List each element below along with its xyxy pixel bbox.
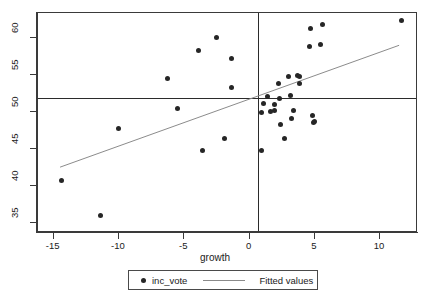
y-tick-label: 35 [10, 208, 20, 237]
legend-line-icon [203, 280, 245, 281]
y-tick-label: 50 [10, 97, 20, 126]
data-point [200, 148, 205, 153]
scatter-plot-figure: 354045505560 -15-10-50510 growth inc_vot… [0, 0, 430, 298]
legend-marker-icon [141, 278, 146, 283]
chart-legend: inc_vote Fitted values [128, 270, 318, 290]
x-tick [379, 233, 380, 239]
x-tick [53, 233, 54, 239]
data-point [272, 108, 277, 113]
x-tick-label: 10 [359, 240, 399, 251]
data-point [282, 136, 287, 141]
data-point [98, 213, 103, 218]
y-tick [30, 74, 36, 75]
legend-label-inc-vote: inc_vote [152, 275, 187, 286]
legend-label-fitted-values: Fitted values [259, 275, 313, 286]
x-axis-line [37, 232, 418, 233]
data-point [277, 96, 282, 101]
x-tick-label: 0 [229, 240, 269, 251]
fitted-values-line [38, 13, 416, 231]
y-tick [30, 222, 36, 223]
data-point [259, 110, 264, 115]
data-point [307, 44, 312, 49]
y-tick-label: 55 [10, 60, 20, 89]
plot-area [38, 13, 416, 231]
y-tick [30, 111, 36, 112]
data-point [59, 178, 64, 183]
data-point [318, 42, 323, 47]
x-tick-label: -15 [33, 240, 73, 251]
legend-items: inc_vote Fitted values [129, 271, 317, 289]
data-point [288, 93, 293, 98]
x-tick [314, 233, 315, 239]
plot-frame [37, 12, 417, 232]
data-point [399, 18, 404, 23]
data-point [310, 113, 315, 118]
data-point [297, 74, 302, 79]
y-tick [30, 148, 36, 149]
data-point [272, 102, 277, 107]
data-point [196, 48, 201, 53]
y-tick [30, 185, 36, 186]
x-tick-label: -5 [163, 240, 203, 251]
x-tick [183, 233, 184, 239]
y-tick-label: 45 [10, 134, 20, 163]
data-point [165, 76, 170, 81]
y-tick-label: 60 [10, 23, 20, 52]
x-tick-label: -10 [98, 240, 138, 251]
y-tick [30, 37, 36, 38]
y-tick-label: 40 [10, 171, 20, 200]
x-tick [249, 233, 250, 239]
data-point [276, 81, 281, 86]
data-point [297, 81, 302, 86]
x-tick-label: 5 [294, 240, 334, 251]
x-axis-title: growth [0, 252, 430, 263]
x-tick [118, 233, 119, 239]
